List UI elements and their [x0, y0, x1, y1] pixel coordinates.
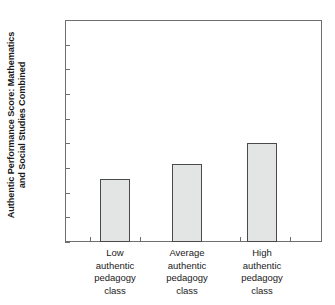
x-label-3: Highauthenticpedagogyclass [226, 247, 298, 297]
x-label-line: pedagogy [79, 272, 151, 285]
y-tick-mark [65, 168, 70, 169]
y-tick-mark [65, 217, 70, 218]
x-label-line: class [151, 285, 223, 298]
x-tick-mark [90, 237, 91, 242]
bar-chart: Authentic Performance Score: Mathematics… [0, 0, 335, 305]
x-label-1: Lowauthenticpedagogyclass [79, 247, 151, 297]
x-label-line: authentic [79, 260, 151, 273]
bar-1 [100, 179, 130, 242]
y-tick-mark [65, 193, 70, 194]
y-tick-mark [65, 20, 70, 21]
y-tick-mark [65, 242, 70, 243]
x-label-line: class [79, 285, 151, 298]
x-label-line: Average [151, 247, 223, 260]
bar-3 [247, 143, 277, 242]
y-axis-title-line-1: Authentic Performance Score: Mathematics [6, 32, 18, 218]
y-tick-mark [65, 69, 70, 70]
y-tick-mark [65, 94, 70, 95]
x-tick-mark [140, 237, 141, 242]
bar-2 [172, 164, 202, 242]
y-axis-title-line-2: and Social Studies Combined [17, 62, 29, 188]
x-label-line: pedagogy [226, 272, 298, 285]
y-tick-mark [65, 119, 70, 120]
x-label-line: class [226, 285, 298, 298]
x-label-line: authentic [151, 260, 223, 273]
x-label-2: Averageauthenticpedagogyclass [151, 247, 223, 297]
y-tick-mark [65, 143, 70, 144]
y-tick-mark [65, 45, 70, 46]
x-label-line: pedagogy [151, 272, 223, 285]
x-label-line: Low [79, 247, 151, 260]
y-axis-title: Authentic Performance Score: Mathematics… [0, 0, 34, 250]
x-tick-mark [240, 237, 241, 242]
x-label-line: authentic [226, 260, 298, 273]
x-label-line: High [226, 247, 298, 260]
x-tick-mark [290, 237, 291, 242]
